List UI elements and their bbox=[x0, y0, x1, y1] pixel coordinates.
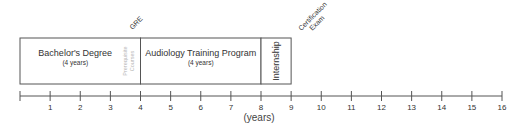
axis-tick-label: 4 bbox=[138, 103, 143, 112]
milestone-label: GRE bbox=[128, 15, 144, 31]
timeline-diagram: Bachelor's Degree(4 years)Audiology Trai… bbox=[0, 0, 524, 127]
axis-tick-label: 7 bbox=[229, 103, 234, 112]
axis-tick-label: 9 bbox=[289, 103, 294, 112]
axis-unit-label: (years) bbox=[243, 112, 274, 123]
axis-tick-label: 14 bbox=[437, 103, 446, 112]
phase-duration: (4 years) bbox=[188, 59, 214, 67]
axis-tick-label: 5 bbox=[168, 103, 173, 112]
axis-tick-label: 16 bbox=[498, 103, 507, 112]
axis-tick-label: 3 bbox=[108, 103, 113, 112]
milestone-gre: GRE bbox=[128, 15, 144, 31]
phase-title: Bachelor's Degree bbox=[38, 48, 112, 58]
note-line: Courses bbox=[129, 51, 135, 72]
axis-tick-label: 2 bbox=[78, 103, 83, 112]
phase-audiology: Audiology Training Program(4 years) bbox=[141, 38, 262, 84]
phases-layer: Bachelor's Degree(4 years)Audiology Trai… bbox=[20, 38, 291, 84]
axis-tick-label: 10 bbox=[317, 103, 326, 112]
axis-tick-label: 11 bbox=[347, 103, 356, 112]
axis-tick-label: 8 bbox=[259, 103, 264, 112]
axis-tick-label: 13 bbox=[407, 103, 416, 112]
axis-tick-label: 15 bbox=[467, 103, 476, 112]
axis-tick-label: 12 bbox=[377, 103, 386, 112]
axis-tick-label: 1 bbox=[48, 103, 53, 112]
phase-title: Internship bbox=[271, 41, 281, 81]
milestone-certification: CertificationExam bbox=[297, 1, 328, 32]
note-line: Prerequisite bbox=[122, 46, 128, 75]
phase-title: Audiology Training Program bbox=[145, 48, 256, 58]
phase-internship: Internship bbox=[261, 38, 291, 84]
milestones-layer: GRECertificationExam bbox=[128, 1, 328, 32]
axis-tick-label: 6 bbox=[199, 103, 204, 112]
timeline-axis: 12345678910111213141516 bbox=[20, 91, 507, 112]
phase-duration: (4 years) bbox=[62, 59, 88, 67]
